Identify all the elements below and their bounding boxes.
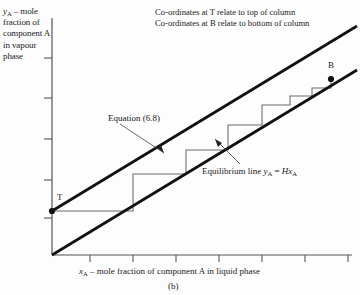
equilibrium-x-subscript: A [292, 170, 297, 177]
equilibrium-line-label: Equilibrium line yA = HxA [202, 166, 297, 177]
x-axis-label: xA – mole fraction of component A in liq… [79, 266, 260, 277]
coordinate-notes: Co-ordinates at T relate to top of colum… [155, 7, 360, 29]
point-b-marker [328, 76, 334, 82]
point-b-label: B [328, 60, 334, 71]
operating-line-label: Equation (6.8) [108, 113, 160, 124]
x-axis-ticks [90, 255, 348, 262]
equilibrium-y-subscript: A [268, 170, 273, 177]
equilibrium-hx-symbol: Hx [282, 166, 293, 176]
equilibrium-leader-arrow [215, 139, 222, 147]
note-line-b: Co-ordinates at B relate to bottom of co… [155, 18, 360, 29]
y-axis-ticks [44, 58, 52, 218]
point-t-label: T [57, 192, 63, 203]
point-t-marker [49, 208, 55, 214]
x-axis-subscript: A [83, 270, 88, 277]
equilibrium-line-prefix: Equilibrium line [202, 166, 264, 176]
note-line-t: Co-ordinates at T relate to top of colum… [155, 7, 360, 18]
equation-leader-line [120, 124, 164, 153]
figure-caption: (b) [168, 281, 179, 292]
y-axis-subscript: A [7, 10, 12, 17]
operating-line [52, 26, 357, 211]
y-axis-label: yA – mole fraction of component A in vap… [3, 6, 55, 62]
stage-staircase [52, 79, 331, 211]
x-axis-label-rest: – mole fraction of component A in liquid… [88, 266, 260, 276]
equilibrium-y-symbol: y [264, 166, 268, 176]
equilibrium-line [52, 70, 357, 255]
